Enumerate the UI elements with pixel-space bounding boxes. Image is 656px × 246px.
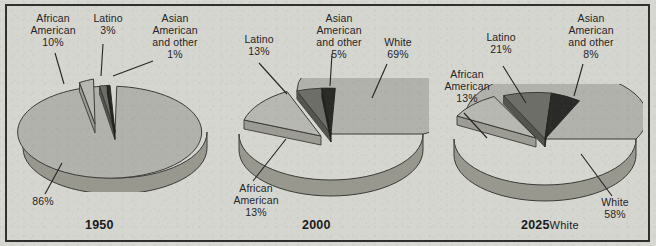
label-asian-2000: Asian American and other 5% [303,12,375,60]
leader-white-1950 [45,163,62,194]
label-white-1950: 86% [21,195,65,207]
year-label-2000: 2000 [302,218,331,232]
label-white-2000: White 69% [374,36,422,60]
figure-root: African American 10% Latino 3% Asian Ame… [0,0,656,246]
chart-2000: Latino 13% Asian American and other 5% W… [219,6,434,240]
year-label-2025: 2025White [521,218,579,232]
label-african-american-2000: African American 13% [220,182,292,218]
label-asian-1950: Asian American and other 1% [139,12,211,60]
leader-latino-1950 [101,44,103,76]
label-latino-1950: Latino 3% [84,12,132,36]
leader-african-american-2000 [253,139,286,181]
year-value-1950: 1950 [85,218,114,232]
year-value-2000: 2000 [302,218,331,232]
leader-white-2000 [372,64,387,98]
leader-white-2025 [581,154,612,196]
figure-border: African American 10% Latino 3% Asian Ame… [5,4,650,242]
label-african-american-2025: African American 13% [431,68,503,104]
year-value-2025: 2025 [521,218,550,232]
leader-african-american-1950 [55,53,64,84]
label-latino-2000: Latino 13% [235,33,283,57]
label-white-2025: White 58% [591,196,639,220]
year-label-1950: 1950 [85,218,114,232]
label-african-american-1950: African American 10% [15,12,91,48]
leader-african-american-2025 [464,113,487,138]
year-suffix-2025: White [550,219,579,231]
label-asian-2025: Asian American and other 8% [555,12,627,60]
leader-latino-2025 [503,66,526,103]
leader-latino-2000 [259,63,287,94]
leader-asian-2025 [574,64,583,96]
leader-asian-1950 [113,61,153,76]
chart-2025: Latino 21% Asian American and other 8% A… [431,6,648,240]
chart-1950: African American 10% Latino 3% Asian Ame… [7,6,222,240]
label-latino-2025: Latino 21% [477,31,525,55]
